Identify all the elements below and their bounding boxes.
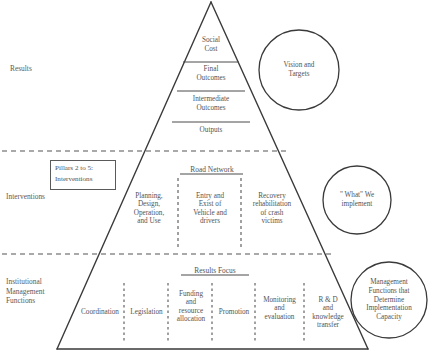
results-row-outputs: Outputs [180,126,242,135]
results-row-final-outcomes: Final Outcomes [177,65,245,82]
callout-label-vision-and-targets: Vision and Targets [267,50,331,90]
results-row-intermediate-outcomes: Intermediate Outcomes [169,95,253,112]
intervention-column-recovery-rehabilitation: Recovery rehabilitation of crash victims [243,192,301,226]
side-label-results: Results [10,64,80,74]
callout-label-what-we-implement: " What" We implement [327,182,387,218]
results-row-social-cost: Social Cost [183,36,239,53]
institutional-column-promotion: Promotion [214,308,254,316]
institutional-column-monitoring-evaluation: Monitoring and evaluation [256,296,303,321]
callout-label-management-functions-capacity: Management Functions that Determine Impl… [355,270,423,330]
institutional-column-rd-knowledge-transfer: R & D and knowledge transfer [305,296,351,330]
road-network-header: Road Network [178,165,246,174]
results-focus-header: Results Focus [180,266,250,275]
institutional-column-funding-resource-allocation: Funding and resource allocation [172,290,210,324]
intervention-column-planning-design-operation-use: Planning, Design, Operation, and Use [122,192,176,226]
institutional-column-legislation: Legislation [125,308,168,316]
institutional-column-coordination: Coordination [77,308,123,316]
diagram-canvas: Results Interventions Institutional Mana… [0,0,428,356]
pillars-2-to-5-box: Pillars 2 to 5: Interventions [50,160,116,190]
side-label-interventions: Interventions [6,192,86,202]
intervention-column-entry-exit-vehicle-drivers: Entry and Exist of Vehicle and drivers [184,192,236,226]
side-label-institutional-management-functions: Institutional Management Functions [6,277,78,306]
